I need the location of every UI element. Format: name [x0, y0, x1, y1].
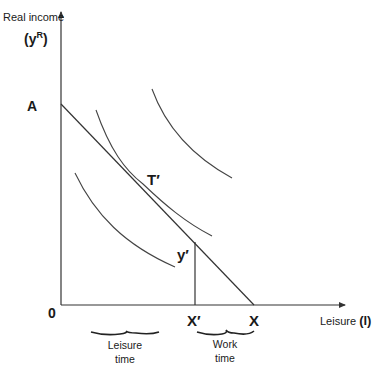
label-X: X — [249, 312, 259, 329]
labor-leisure-diagram: Real income (yR) A 0 T′ y′ X′ X Leisure … — [0, 0, 377, 373]
work-time-brace — [197, 330, 254, 335]
leisure-time-label-line1: Leisure — [108, 339, 143, 351]
label-y-prime: y′ — [177, 246, 189, 263]
label-origin: 0 — [48, 305, 56, 321]
indifference-curve-upper — [152, 89, 232, 178]
work-time-label-line2: time — [215, 352, 235, 364]
leisure-time-label-line2: time — [115, 353, 135, 365]
work-time-label-line1: Work — [213, 338, 238, 350]
label-X-prime: X′ — [187, 312, 201, 329]
budget-line — [61, 104, 254, 305]
leisure-time-brace — [91, 331, 159, 335]
indifference-curve-lower — [75, 173, 175, 267]
x-axis-label: Leisure (l) — [320, 313, 371, 328]
label-A: A — [27, 98, 37, 114]
y-axis-label-line1: Real income — [3, 11, 64, 23]
y-axis-label-line2: (yR) — [24, 30, 48, 47]
label-T-prime: T′ — [147, 171, 160, 188]
